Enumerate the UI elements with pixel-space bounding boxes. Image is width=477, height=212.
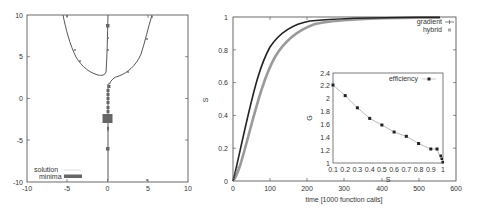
left-xtick: -10 [22, 185, 32, 192]
left-ytick: 5 [19, 53, 23, 60]
inset-xtick: 0.2 [340, 166, 350, 173]
inset-xtick: 0.6 [389, 166, 399, 173]
main-ytick: 0.2 [218, 145, 228, 152]
main-xtick: 600 [450, 185, 462, 192]
inset-ytick: 1.2 [320, 147, 330, 154]
inset-xtick: 0.5 [377, 166, 387, 173]
left-plot: 10 5 0 -5 -10 -10 -5 0 5 10 [13, 12, 192, 193]
left-ytick: 0 [19, 95, 23, 102]
left-ytick: -5 [17, 137, 23, 144]
main-xtick: 500 [413, 185, 425, 192]
left-xtick: 5 [146, 185, 150, 192]
inset-ylabel: G [306, 115, 313, 120]
main-ytick: 0.6 [218, 79, 228, 86]
main-xtick: 0 [231, 185, 235, 192]
inset-xtick: 0.1 [328, 166, 338, 173]
main-ytick: 0.4 [218, 112, 228, 119]
inset-ytick: 2.2 [320, 82, 330, 89]
main-xtick: 200 [301, 185, 313, 192]
legend-gradient-label: gradient [417, 18, 442, 26]
inset-xlabel: S [386, 176, 391, 183]
left-ytick: 10 [15, 12, 23, 19]
legend-hybrid-label: hybrid [423, 26, 442, 34]
left-xtick: -5 [64, 185, 70, 192]
inset-ytick: 1.8 [320, 108, 330, 115]
inset-xtick: 0.8 [414, 166, 424, 173]
main-xtick: 400 [376, 185, 388, 192]
left-xtick: 0 [106, 185, 110, 192]
legend-minima-swatch [64, 175, 82, 179]
inset-ytick: 1.4 [320, 134, 330, 141]
legend-efficiency-label: efficiency [389, 75, 419, 83]
main-ytick: 0.8 [218, 47, 228, 54]
inset-frame [333, 73, 443, 163]
inset-ytick: 1.6 [320, 121, 330, 128]
legend-hybrid-swatch [448, 29, 451, 32]
inset-xtick: 1 [441, 166, 445, 173]
main-xlabel: time [1000 function calls] [305, 196, 382, 204]
main-ylabel: S [202, 97, 209, 102]
legend-solution-label: solution [34, 166, 58, 173]
inset-xtick: 0.3 [353, 166, 363, 173]
inset-xtick: 0.7 [401, 166, 411, 173]
figure: 10 5 0 -5 -10 -10 -5 0 5 10 [0, 0, 477, 212]
main-xtick: 100 [264, 185, 276, 192]
inset-xtick: 0.9 [426, 166, 436, 173]
inset-xtick: 0.4 [365, 166, 375, 173]
main-ytick: 0 [224, 178, 228, 185]
legend-minima-label: minima [39, 173, 62, 180]
inset-ytick: 2.4 [320, 70, 330, 77]
inset-plot: 2.4 2.2 2 1.8 1.6 1.4 1.2 1 0.1 0.2 0.3 … [306, 70, 445, 184]
left-xtick: 10 [184, 185, 192, 192]
main-ytick: 1 [224, 14, 228, 21]
inset-ytick: 2 [326, 95, 330, 102]
main-xtick: 300 [338, 185, 350, 192]
